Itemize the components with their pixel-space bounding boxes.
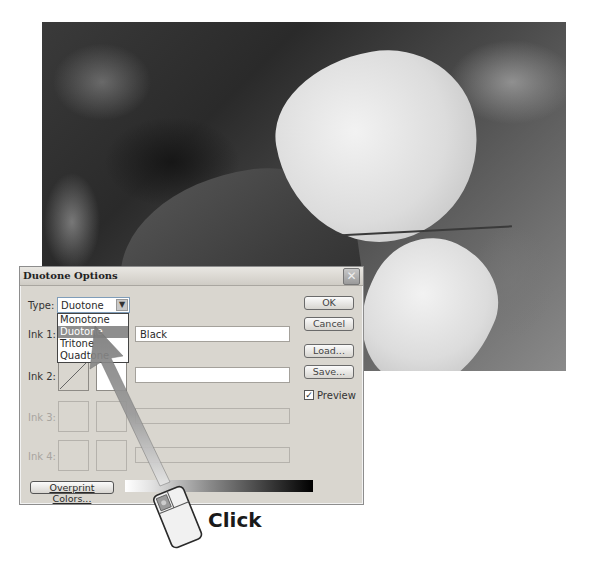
checkmark-icon: ✓ [305, 390, 313, 400]
ink3-name-field [135, 408, 290, 424]
ink2-curve-swatch[interactable] [58, 360, 89, 391]
chevron-down-icon[interactable]: ▼ [116, 299, 128, 311]
mouse-click-icon [150, 483, 210, 553]
close-icon[interactable]: ✕ [343, 268, 360, 285]
duotone-options-dialog: Duotone Options ✕ Type: Duotone ▼ Monoto… [19, 266, 364, 505]
save-button[interactable]: Save... [304, 365, 354, 379]
dialog-title: Duotone Options [23, 270, 118, 281]
cancel-button[interactable]: Cancel [304, 317, 354, 331]
type-selected-value: Duotone [61, 300, 104, 311]
ink2-name-field[interactable] [135, 367, 290, 383]
ink4-label: Ink 4: [28, 451, 56, 462]
type-option-tritone[interactable]: Tritone [58, 338, 128, 350]
click-callout: Click [208, 508, 262, 532]
ink4-name-field [135, 447, 290, 463]
ink3-label: Ink 3: [28, 412, 56, 423]
ink3-color-swatch [96, 401, 127, 432]
ink1-label: Ink 1: [28, 329, 56, 340]
ink2-label: Ink 2: [28, 371, 56, 382]
ink2-color-swatch[interactable] [96, 360, 127, 391]
ok-button[interactable]: OK [304, 296, 354, 310]
type-option-duotone[interactable]: Duotone [58, 326, 128, 338]
ink3-curve-swatch [58, 401, 89, 432]
type-option-monotone[interactable]: Monotone [58, 314, 128, 326]
load-button[interactable]: Load... [304, 344, 354, 358]
preview-checkbox[interactable]: ✓ [304, 390, 314, 400]
preview-label: Preview [317, 390, 356, 401]
type-label: Type: [28, 300, 54, 311]
title-bar[interactable]: Duotone Options ✕ [20, 267, 363, 286]
overprint-colors-button[interactable]: Overprint Colors... [30, 481, 114, 494]
ink4-color-swatch [96, 440, 127, 471]
ink1-name-field[interactable]: Black [135, 326, 290, 342]
type-dropdown-list: Monotone Duotone Tritone Quadtone [57, 313, 129, 363]
type-select[interactable]: Duotone ▼ [57, 297, 130, 313]
ink4-curve-swatch [58, 440, 89, 471]
curve-line-icon [59, 361, 88, 390]
type-option-quadtone[interactable]: Quadtone [58, 350, 128, 362]
ink1-name: Black [140, 329, 167, 340]
